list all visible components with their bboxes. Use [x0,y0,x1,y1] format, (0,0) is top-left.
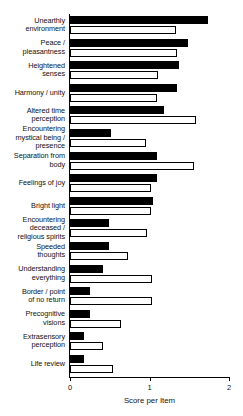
bar-series-light [70,207,151,215]
category-label: Understandingeverything [0,265,65,282]
bar-series-light [70,275,152,283]
category-label: Feelings of joy [0,179,65,187]
bar-series-dark [70,242,109,250]
bar-series-light [70,162,194,170]
bar-group: Life review [0,355,243,373]
bar-group: Bright light [0,197,243,215]
bar-series-light [70,342,103,350]
category-label: Encounteringmystical being /presence [0,125,65,150]
x-tick-0 [70,377,71,381]
bar-series-dark [70,129,111,137]
bar-series-dark [70,16,208,24]
bar-group: Peace /pleasantness [0,39,243,57]
x-tick-label-0: 0 [68,383,72,392]
category-label: Speededthoughts [0,243,65,260]
bar-chart: 012 UnearthlyenvironmentPeace /pleasantn… [0,0,243,416]
bar-series-light [70,297,152,305]
category-label: Harmony / unity [0,89,65,97]
bar-group: Separation frombody [0,152,243,170]
bar-series-dark [70,39,188,47]
category-label: Bright light [0,202,65,210]
category-label: Altered timeperception [0,107,65,124]
bar-series-light [70,94,157,102]
bar-series-light [70,71,158,79]
bar-group: Altered timeperception [0,106,243,124]
bar-group: Understandingeverything [0,265,243,283]
bar-series-dark [70,265,103,273]
bar-series-light [70,26,176,34]
bar-series-light [70,116,196,124]
bar-group: Heightenedsenses [0,61,243,79]
category-label: Separation frombody [0,152,65,169]
bar-series-light [70,49,177,57]
bar-series-light [70,320,121,328]
bar-series-light [70,139,146,147]
bar-group: Encounteringmystical being /presence [0,129,243,147]
plot-area: 012 UnearthlyenvironmentPeace /pleasantn… [0,0,243,384]
bar-series-dark [70,197,153,205]
bar-group: Encounteringdeceased /religious spirits [0,219,243,237]
category-label: Border / pointof no return [0,288,65,305]
bar-group: Precognitivevisions [0,310,243,328]
bar-group: Feelings of joy [0,174,243,192]
category-label: Peace /pleasantness [0,39,65,56]
x-tick-2 [229,377,230,381]
bar-series-dark [70,174,157,182]
x-axis-title: Score per Item [0,396,243,405]
x-tick-label-2: 2 [227,383,231,392]
x-tick-label-1: 1 [147,383,151,392]
bar-group: Speededthoughts [0,242,243,260]
x-tick-1 [150,377,151,381]
category-label: Life review [0,360,65,368]
bar-series-dark [70,355,84,363]
category-label: Heightenedsenses [0,62,65,79]
bar-series-light [70,184,151,192]
bar-series-dark [70,106,164,114]
bar-series-dark [70,332,84,340]
category-label: Unearthlyenvironment [0,17,65,34]
bar-series-light [70,229,147,237]
x-axis-title-text: Score per Item [68,396,175,405]
bar-series-dark [70,84,177,92]
category-label: Precognitivevisions [0,310,65,327]
category-label: Encounteringdeceased /religious spirits [0,216,65,241]
bar-group: Harmony / unity [0,84,243,102]
bar-series-dark [70,310,90,318]
bar-series-light [70,365,113,373]
bar-series-dark [70,61,179,69]
bar-group: Unearthlyenvironment [0,16,243,34]
bar-series-light [70,252,128,260]
bar-series-dark [70,152,157,160]
bar-group: Border / pointof no return [0,287,243,305]
bar-group: Extrasensoryperception [0,332,243,350]
bar-series-dark [70,219,109,227]
bar-series-dark [70,287,90,295]
category-label: Extrasensoryperception [0,333,65,350]
